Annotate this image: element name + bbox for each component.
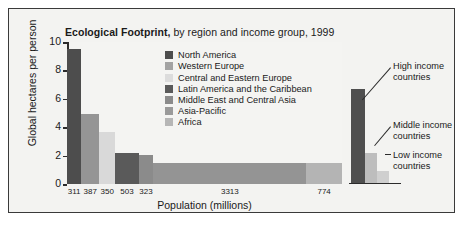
legend-item-label: Africa xyxy=(178,117,202,127)
x-tick-label: 311 xyxy=(67,187,81,196)
legend-item: Central and Eastern Europe xyxy=(165,72,312,83)
bar xyxy=(115,153,138,184)
legend-swatch-icon xyxy=(165,107,173,115)
legend-item-label: Latin America and the Caribbean xyxy=(178,84,312,94)
legend-swatch-icon xyxy=(165,85,173,93)
legend-item: Africa xyxy=(165,117,312,128)
annotation-leader-line xyxy=(362,67,391,100)
x-tick-label: 323 xyxy=(139,187,154,196)
annotation-leader-line xyxy=(385,154,391,155)
chart-title: Ecological Footprint, by region and inco… xyxy=(65,26,334,38)
bar xyxy=(81,114,99,184)
chart-figure: Ecological Footprint, by region and inco… xyxy=(0,0,464,232)
bar xyxy=(153,163,306,184)
figure-frame: Ecological Footprint, by region and inco… xyxy=(8,8,455,213)
x-tick-label: 3313 xyxy=(153,187,306,196)
legend-item-label: Central and Eastern Europe xyxy=(178,73,292,83)
bar xyxy=(306,163,342,184)
annotation-leader-line xyxy=(374,126,391,146)
bar xyxy=(99,132,115,184)
income-bar xyxy=(365,153,377,183)
income-bar xyxy=(351,89,365,183)
y-tick-mark xyxy=(63,42,67,44)
legend-item-label: Middle East and Central Asia xyxy=(178,95,296,105)
x-axis-label: Population (millions) xyxy=(67,199,342,211)
legend-item-label: Western Europe xyxy=(178,61,244,71)
legend-item: Asia-Pacific xyxy=(165,106,312,117)
bar xyxy=(139,155,154,184)
income-annotation: Low incomecountries xyxy=(393,150,442,171)
income-panel-baseline xyxy=(349,183,401,185)
income-annotation-line2: countries xyxy=(393,72,444,83)
y-axis-label: Global hectares per person xyxy=(26,8,38,158)
y-tick-label: 0 xyxy=(55,177,61,189)
legend-item: North America xyxy=(165,50,312,61)
y-tick-label: 10 xyxy=(49,35,61,47)
legend-swatch-icon xyxy=(165,118,173,126)
x-tick-label: 503 xyxy=(115,187,138,196)
legend-swatch-icon xyxy=(165,96,173,104)
chart-title-bold: Ecological Footprint, xyxy=(65,26,170,38)
income-annotation-line1: High income xyxy=(393,61,444,72)
legend-item: Latin America and the Caribbean xyxy=(165,84,312,95)
x-tick-label: 387 xyxy=(81,187,99,196)
y-tick-label: 8 xyxy=(55,63,61,75)
x-tick-label: 350 xyxy=(99,187,115,196)
legend-swatch-icon xyxy=(165,74,173,82)
legend-item-label: Asia-Pacific xyxy=(178,106,226,116)
income-bar xyxy=(377,171,389,182)
legend-item: Western Europe xyxy=(165,61,312,72)
y-tick-label: 6 xyxy=(55,92,61,104)
income-annotation-line2: countries xyxy=(393,131,452,142)
y-tick-label: 2 xyxy=(55,149,61,161)
income-group-panel: High incomecountriesMiddle incomecountri… xyxy=(349,42,464,184)
legend-swatch-icon xyxy=(165,62,173,70)
income-annotation: High incomecountries xyxy=(393,61,444,82)
legend-item: Middle East and Central Asia xyxy=(165,95,312,106)
income-annotation-line1: Middle income xyxy=(393,120,452,131)
legend-item-label: North America xyxy=(178,50,236,60)
bar xyxy=(67,49,81,184)
income-annotation: Middle incomecountries xyxy=(393,120,452,141)
x-tick-label: 774 xyxy=(306,187,342,196)
legend-swatch-icon xyxy=(165,51,173,59)
income-annotation-line2: countries xyxy=(393,161,442,172)
y-tick-label: 4 xyxy=(55,120,61,132)
income-annotation-line1: Low income xyxy=(393,150,442,161)
chart-title-rest: by region and income group, 1999 xyxy=(170,26,334,38)
y-tick-mark xyxy=(63,184,67,186)
chart-legend: North AmericaWestern EuropeCentral and E… xyxy=(165,50,312,128)
